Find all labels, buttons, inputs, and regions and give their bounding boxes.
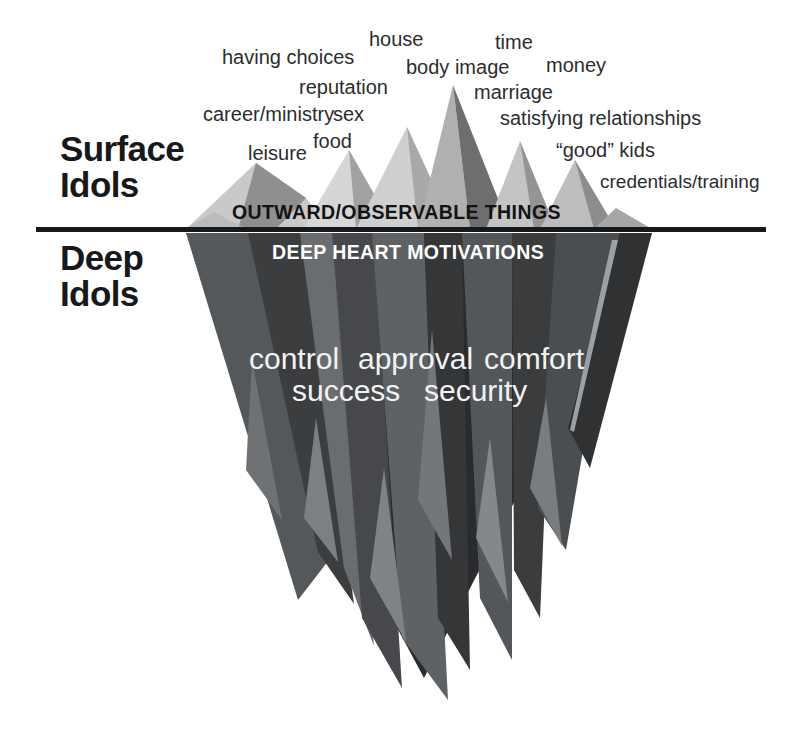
surface-idol-label: marriage [474, 82, 553, 102]
surface-idol-label: credentials/training [600, 172, 759, 191]
deep-idol-label: success [292, 376, 400, 406]
surface-idol-label: sex [333, 104, 364, 124]
surface-idol-label: leisure [248, 143, 307, 163]
surface-idol-label: satisfying relationships [500, 108, 701, 128]
surface-idol-label: having choices [222, 47, 354, 67]
surface-idols-heading: Surface Idols [60, 131, 184, 202]
surface-idol-label: money [546, 55, 606, 75]
deep-idol-label: comfort [484, 344, 584, 374]
deep-idol-label: security [424, 376, 527, 406]
waterline-divider [36, 227, 766, 232]
surface-idol-label: food [313, 131, 352, 151]
surface-idol-label: time [495, 32, 533, 52]
deep-idol-label: approval [358, 344, 473, 374]
banner-deep-heart-motivations: DEEP HEART MOTIVATIONS [272, 243, 544, 263]
surface-idol-label: body image [406, 57, 509, 77]
surface-idol-label: “good” kids [556, 140, 655, 160]
iceberg-below-water [186, 233, 652, 700]
surface-idol-label: career/ministry [203, 104, 334, 124]
surface-idol-label: house [369, 29, 424, 49]
iceberg-diagram: Surface Idols Deep Idols OUTWARD/OBSERVA… [0, 0, 810, 738]
banner-outward-observable-things: OUTWARD/OBSERVABLE THINGS [232, 203, 561, 223]
deep-idols-heading: Deep Idols [60, 240, 143, 311]
deep-idol-label: control [249, 344, 339, 374]
surface-idol-label: reputation [299, 77, 388, 97]
